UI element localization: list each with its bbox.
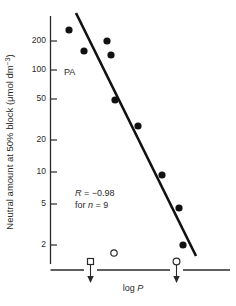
chart-figure: 200 100 50 20 10 5 2 Neutral amount at 5… bbox=[0, 0, 236, 306]
svg-text:Neutral amount at 50% block (μ: Neutral amount at 50% block (μmol dm−3) bbox=[4, 54, 16, 229]
data-point bbox=[134, 122, 141, 129]
data-point bbox=[107, 51, 114, 58]
open-circle-icon bbox=[173, 258, 180, 265]
x-axis-title-prefix: log bbox=[123, 283, 138, 293]
sample-size-value: = 9 bbox=[93, 200, 108, 210]
y-tick-label-100: 100 bbox=[32, 64, 46, 74]
floating-open-circle-marker bbox=[111, 250, 117, 256]
x-axis-title-symbol: P bbox=[137, 283, 143, 293]
y-tick-label-10: 10 bbox=[37, 166, 47, 176]
correlation-annotation: R = −0.98 bbox=[75, 188, 115, 198]
data-point bbox=[175, 204, 182, 211]
regression-fit-line bbox=[76, 13, 196, 256]
y-axis-title-main: Neutral amount at 50% block ( bbox=[4, 101, 15, 230]
data-point bbox=[103, 37, 110, 44]
y-axis-title-close: ) bbox=[4, 54, 15, 57]
arrow-head-left bbox=[87, 276, 93, 283]
correlation-value: = −0.98 bbox=[82, 188, 115, 198]
data-point bbox=[80, 47, 87, 54]
y-axis-ticks bbox=[51, 41, 58, 245]
y-tick-label-200: 200 bbox=[32, 35, 46, 45]
sample-size-annotation: for n = 9 bbox=[75, 200, 108, 210]
y-tick-label-2: 2 bbox=[41, 239, 46, 249]
axis-break-marker-circle bbox=[173, 258, 180, 283]
scatter-plot: 200 100 50 20 10 5 2 Neutral amount at 5… bbox=[0, 0, 236, 306]
y-tick-label-5: 5 bbox=[41, 198, 46, 208]
x-axis-title: log P bbox=[123, 283, 144, 293]
sample-size-prefix: for bbox=[75, 200, 88, 210]
open-square-icon bbox=[88, 259, 94, 265]
y-axis-title-unit: μmol dm bbox=[4, 65, 15, 102]
arrow-head-right bbox=[173, 276, 179, 283]
axis-break-marker-square bbox=[87, 259, 93, 284]
series-label-pa: PA bbox=[64, 67, 75, 77]
y-tick-label-50: 50 bbox=[37, 93, 47, 103]
y-axis-tick-labels: 200 100 50 20 10 5 2 bbox=[32, 35, 46, 249]
y-axis-title: Neutral amount at 50% block (μmol dm−3) bbox=[4, 54, 16, 229]
data-point bbox=[179, 241, 186, 248]
data-point bbox=[158, 171, 165, 178]
data-point bbox=[111, 96, 118, 103]
statistics-annotation: R = −0.98 for n = 9 bbox=[75, 188, 115, 210]
y-tick-label-20: 20 bbox=[37, 134, 47, 144]
data-points-series-pa bbox=[65, 26, 186, 248]
data-point bbox=[65, 26, 72, 33]
